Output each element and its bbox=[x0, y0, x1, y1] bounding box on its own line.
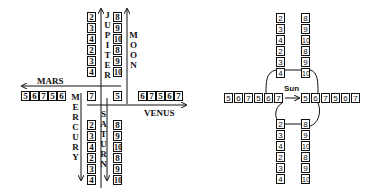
sun-label: Sun bbox=[284, 84, 299, 93]
mercury-cell: 2 bbox=[87, 153, 96, 163]
jupiter-cell: 4 bbox=[87, 67, 96, 77]
cell: 7 bbox=[321, 93, 330, 103]
cell: 10 bbox=[301, 35, 310, 45]
mars-cell: 7 bbox=[39, 91, 48, 101]
cell: 5 bbox=[301, 93, 310, 103]
cell: 4 bbox=[276, 174, 285, 184]
cell: 2 bbox=[276, 13, 285, 23]
jupiter-cell: 2 bbox=[87, 45, 96, 55]
mars-cell: 6 bbox=[30, 91, 39, 101]
cell: 5 bbox=[254, 93, 263, 103]
moon-cell: 8 bbox=[113, 12, 122, 22]
venus-cell: 7 bbox=[147, 91, 156, 101]
mercury-cell: 3 bbox=[87, 164, 96, 174]
mercury-cell: 4 bbox=[87, 175, 96, 185]
cell: 9 bbox=[301, 163, 310, 173]
saturn-cell: 10 bbox=[113, 142, 122, 152]
cell: 8 bbox=[301, 152, 310, 162]
cell: 6 bbox=[234, 93, 243, 103]
center-right-cell: 5 bbox=[113, 91, 122, 101]
cell: 7 bbox=[351, 93, 360, 103]
moon-cell: 8 bbox=[113, 45, 122, 55]
mars-cell: 5 bbox=[48, 91, 57, 101]
cell: 8 bbox=[301, 13, 310, 23]
moon-cell: 9 bbox=[113, 23, 122, 33]
cell: 4 bbox=[276, 35, 285, 45]
saturn-cell: 8 bbox=[113, 153, 122, 163]
cell: 2 bbox=[276, 119, 285, 129]
cell: 9 bbox=[301, 130, 310, 140]
moon-cell: 9 bbox=[113, 56, 122, 66]
cell: 7 bbox=[274, 93, 283, 103]
cell: 5 bbox=[331, 93, 340, 103]
cell: 6 bbox=[341, 93, 350, 103]
cell: 9 bbox=[301, 57, 310, 67]
saturn-cell: 9 bbox=[113, 164, 122, 174]
cell: 10 bbox=[301, 68, 310, 78]
mars-label: MARS bbox=[37, 77, 64, 86]
cell: 6 bbox=[311, 93, 320, 103]
jupiter-cell: 4 bbox=[87, 34, 96, 44]
mars-cell: 5 bbox=[21, 91, 30, 101]
cell: 9 bbox=[301, 24, 310, 34]
cell: 4 bbox=[276, 141, 285, 151]
cell: 8 bbox=[301, 119, 310, 129]
saturn-label: S A T U R N bbox=[99, 109, 108, 169]
cell: 4 bbox=[276, 68, 285, 78]
venus-cell: 6 bbox=[138, 91, 147, 101]
cell: 10 bbox=[301, 141, 310, 151]
cell: 3 bbox=[276, 57, 285, 67]
cell: 3 bbox=[276, 163, 285, 173]
jupiter-cell: 2 bbox=[87, 12, 96, 22]
venus-label: VENUS bbox=[144, 109, 175, 118]
mars-cell: 6 bbox=[57, 91, 66, 101]
saturn-cell: 9 bbox=[113, 131, 122, 141]
venus-cell: 7 bbox=[174, 91, 183, 101]
cell: 5 bbox=[224, 93, 233, 103]
venus-cell: 6 bbox=[165, 91, 174, 101]
cell: 7 bbox=[244, 93, 253, 103]
mercury-cell: 4 bbox=[87, 142, 96, 152]
moon-cell: 10 bbox=[113, 34, 122, 44]
cell: 10 bbox=[301, 174, 310, 184]
venus-cell: 5 bbox=[156, 91, 165, 101]
mercury-cell: 2 bbox=[87, 120, 96, 130]
jupiter-label: J U P I T E R bbox=[103, 10, 112, 80]
saturn-cell: 10 bbox=[113, 175, 122, 185]
saturn-cell: 8 bbox=[113, 120, 122, 130]
moon-cell: 10 bbox=[113, 67, 122, 77]
cell: 8 bbox=[301, 46, 310, 56]
cell: 2 bbox=[276, 152, 285, 162]
cell: 6 bbox=[264, 93, 273, 103]
mercury-cell: 3 bbox=[87, 131, 96, 141]
cell: 3 bbox=[276, 130, 285, 140]
jupiter-cell: 3 bbox=[87, 23, 96, 33]
mercury-label: M E R C U R Y bbox=[71, 92, 80, 162]
cell: 3 bbox=[276, 24, 285, 34]
moon-label: M O O N bbox=[129, 30, 138, 70]
center-left-cell: 7 bbox=[87, 91, 96, 101]
jupiter-cell: 3 bbox=[87, 56, 96, 66]
cell: 2 bbox=[276, 46, 285, 56]
